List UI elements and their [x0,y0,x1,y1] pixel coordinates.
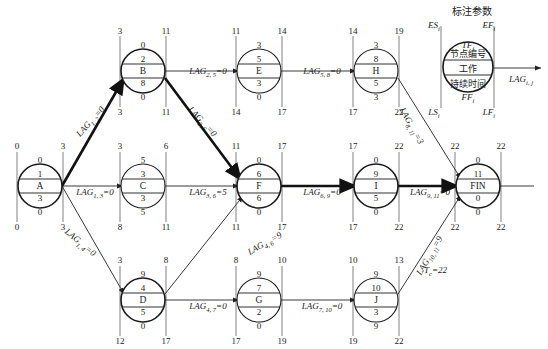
lag-7-10-label: LAG7, 10=0 [302,301,343,313]
node-D-es: 3 [118,255,123,265]
node-I-tf: 0 [374,155,379,165]
legend-ls-label: LSi [428,107,439,119]
node-H-id: 8 [374,54,379,64]
node-C-ff: 5 [141,207,146,217]
node-A-duration: 3 [38,193,43,203]
lag-2-5-label: LAG2, 5=0 [189,66,226,78]
node-C-duration: 3 [141,193,146,203]
node-G-es: 8 [234,255,239,265]
node-A-es: 0 [15,141,20,151]
node-D-lf: 17 [162,336,171,346]
node-H-tf: 3 [374,40,379,50]
node-D-name: D [140,295,147,305]
node-D-ff: 0 [141,321,146,331]
node-G-ff: 0 [257,321,262,331]
lag-6-9-label: LAG6, 9=0 [303,187,340,199]
node-FIN-ff: 0 [476,207,481,217]
legend-ff-label: FFi [462,92,475,104]
node-A-id: 1 [38,169,43,179]
node-E-name: E [256,66,262,76]
node-E-ff: 0 [257,92,262,102]
node-H-ff: 3 [374,92,379,102]
lag-3-6-label: LAG3, 6=5 [189,187,226,199]
node-A-ls: 0 [15,222,20,232]
node-C-id: 3 [141,169,146,179]
node-I-name: I [374,181,377,191]
node-E-duration: 3 [257,78,262,88]
lag-9-11-label: LAG9, 11=0 [410,187,450,199]
node-C-name: C [140,181,146,191]
node-E-ls: 14 [232,107,241,117]
node-B-ff: 0 [141,92,146,102]
node-A-tf: 0 [38,155,43,165]
node-FIN-lf: 22 [497,222,506,232]
node-F-es: 11 [232,141,241,151]
node-D-duration: 5 [141,307,146,317]
node-G-ls: 17 [232,336,241,346]
node-C-es: 3 [118,141,123,151]
node-E-id: 5 [257,54,262,64]
node-I-lf: 22 [395,222,404,232]
node-J-name: J [374,295,378,305]
node-C-tf: 5 [141,155,146,165]
legend-node-id-label: 节点编号 [450,47,486,60]
node-I-es: 17 [349,141,358,151]
legend-ef-label: EFi [483,20,496,32]
legend-es-label: ESi [428,20,440,32]
node-A-name: A [37,181,44,191]
node-C-ef: 6 [164,141,169,151]
node-H-duration: 5 [374,78,379,88]
node-D-ls: 12 [116,336,125,346]
node-J-ls: 19 [349,336,358,346]
node-J-id: 10 [372,283,381,293]
node-D-ef: 8 [164,255,169,265]
node-C-ls: 8 [118,222,123,232]
node-B-name: B [140,66,146,76]
node-FIN-duration: 0 [476,193,481,203]
node-J-ff: 9 [374,321,379,331]
legend-duration-label: 持续时间 [450,77,486,90]
node-B-tf: 0 [141,40,146,50]
node-F-name: F [256,181,261,191]
node-FIN-id: 11 [474,169,483,179]
node-FIN-ls: 22 [451,222,460,232]
node-F-id: 6 [257,169,262,179]
node-G-name: G [256,295,263,305]
lag-4-7-label: LAG4, 7=0 [189,301,226,313]
node-D-tf: 9 [141,269,146,279]
node-F-ls: 11 [232,222,241,232]
node-I-id: 9 [374,169,379,179]
node-J-es: 10 [349,255,358,265]
node-A-ff: 0 [38,207,43,217]
node-E-tf: 3 [257,40,262,50]
node-I-ls: 17 [349,222,358,232]
node-I-ef: 22 [395,141,404,151]
node-FIN-name: FIN [470,181,485,191]
network-diagram-canvas: 标注参数 ESi EFi TFi 节点编号 工作 持续时间 FFi LSi LF… [0,0,548,349]
node-G-id: 7 [257,283,262,293]
node-E-ef: 14 [278,26,287,36]
legend-lf-label: LFi [483,107,495,119]
node-J-ef: 13 [395,255,404,265]
node-J-tf: 9 [374,269,379,279]
node-FIN-tf: 0 [476,155,481,165]
node-G-ef: 10 [278,255,287,265]
node-E-es: 11 [232,26,241,36]
node-G-tf: 9 [257,269,262,279]
node-H-ls: 17 [349,107,358,117]
node-B-lf: 11 [162,107,171,117]
node-B-ls: 3 [118,107,123,117]
node-I-ff: 0 [374,207,379,217]
node-H-es: 14 [349,26,358,36]
node-D-id: 4 [141,283,146,293]
legend-lag-label: LAGi, j [509,74,533,86]
node-J-lf: 22 [395,336,404,346]
node-A-ef: 3 [61,141,66,151]
node-F-duration: 6 [257,193,262,203]
node-G-lf: 19 [278,336,287,346]
node-G-duration: 2 [257,307,262,317]
node-H-ef: 19 [395,26,404,36]
node-FIN-es: 22 [451,141,460,151]
lag-5-8-label: LAG5, 8=0 [303,66,340,78]
node-B-id: 2 [141,54,146,64]
